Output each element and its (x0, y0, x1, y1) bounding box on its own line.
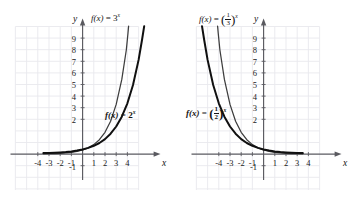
paren-close: ) (231, 14, 235, 25)
axes-right (192, 19, 342, 181)
fn-lhs: f(x) (91, 13, 104, 23)
x-tick-3: 3 (291, 159, 303, 168)
y-axis-label: y (73, 15, 77, 25)
y-tick-5: 5 (243, 81, 257, 90)
x-tick-neg1: -1 (65, 159, 77, 168)
x-tick-4: 4 (121, 159, 133, 168)
function-label-3x: f(x) = 3x (91, 13, 120, 23)
fn-lhs: f(x) (186, 108, 200, 118)
y-tick-4: 4 (62, 93, 76, 102)
y-tick-4: 4 (243, 93, 257, 102)
x-axis-label: x (162, 159, 166, 169)
plot-area-left (0, 0, 181, 200)
x-tick-neg2: -2 (235, 159, 247, 168)
x-tick-1: 1 (269, 159, 281, 168)
fn-exp: x (118, 12, 120, 18)
function-label-2x: f(x) = 2x (105, 110, 135, 120)
y-tick-9: 9 (62, 35, 76, 44)
x-tick-3: 3 (110, 159, 122, 168)
y-tick-6: 6 (62, 69, 76, 78)
fn-exp: x (133, 109, 136, 115)
function-label-one-third-x: f(x) = (13)x (199, 12, 238, 27)
x-tick-neg1: -1 (246, 159, 258, 168)
x-tick-2: 2 (280, 159, 292, 168)
y-tick-2: 2 (243, 116, 257, 125)
y-axis-label: y (254, 15, 258, 25)
x-tick-neg3: -3 (224, 159, 236, 168)
y-tick-5: 5 (62, 81, 76, 90)
y-tick-7: 7 (62, 58, 76, 67)
x-tick-2: 2 (99, 159, 111, 168)
x-tick-1: 1 (88, 159, 100, 168)
x-tick-neg4: -4 (213, 159, 225, 168)
y-tick-6: 6 (243, 69, 257, 78)
y-tick-8: 8 (243, 46, 257, 55)
fn-exp: x (235, 13, 237, 19)
x-tick-4: 4 (302, 159, 314, 168)
x-tick-neg3: -3 (43, 159, 55, 168)
paren-close: ) (219, 108, 223, 119)
x-tick-neg2: -2 (54, 159, 66, 168)
y-tick-2: 2 (62, 116, 76, 125)
y-tick-3: 3 (243, 104, 257, 113)
x-tick-neg4: -4 (32, 159, 44, 168)
fn-lhs: f(x) (105, 110, 119, 120)
plot-area-right (181, 0, 362, 200)
y-tick-9: 9 (243, 35, 257, 44)
y-tick-7: 7 (243, 58, 257, 67)
fn-lhs: f(x) (199, 14, 212, 24)
y-tick-3: 3 (62, 104, 76, 113)
chart-panel-left: y x 9 8 7 6 5 4 3 2 -1 -4 -3 -2 -1 1 2 3… (0, 0, 181, 200)
function-label-one-half-x: f(x) = (12)x (186, 106, 226, 121)
fn-exp: x (223, 107, 226, 113)
x-axis-label: x (343, 159, 347, 169)
axes-left (11, 19, 161, 181)
chart-panel-right: y x 9 8 7 6 5 4 3 2 -1 -4 -3 -2 -1 1 2 3… (181, 0, 362, 200)
y-tick-8: 8 (62, 46, 76, 55)
